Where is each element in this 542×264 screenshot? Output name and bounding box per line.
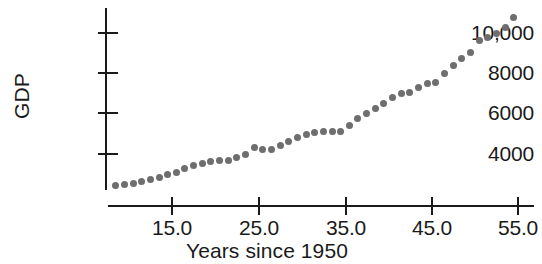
data-point xyxy=(484,34,491,41)
x-tick-label-25: 25.0 xyxy=(224,216,294,240)
data-point xyxy=(277,142,284,149)
data-point xyxy=(294,134,301,141)
data-point xyxy=(199,160,206,167)
x-axis-title: Years since 1950 xyxy=(0,239,534,263)
data-point xyxy=(432,79,439,86)
data-point xyxy=(502,24,509,31)
data-point xyxy=(216,157,223,164)
data-point xyxy=(225,157,232,164)
data-point xyxy=(415,84,422,91)
x-tick-label-35: 35.0 xyxy=(311,216,381,240)
data-point xyxy=(112,182,119,189)
data-point xyxy=(450,62,457,69)
y-tick-label-4000: 4000 xyxy=(444,142,534,166)
data-point xyxy=(372,105,379,112)
data-point xyxy=(233,154,240,161)
data-point xyxy=(130,180,137,187)
data-point xyxy=(380,100,387,107)
data-point xyxy=(190,162,197,169)
data-point xyxy=(424,80,431,87)
data-point xyxy=(285,138,292,145)
x-tick-label-15: 15.0 xyxy=(137,216,207,240)
data-point xyxy=(398,90,405,97)
y-axis-title: GDP xyxy=(10,46,34,146)
data-point xyxy=(242,151,249,158)
data-point xyxy=(138,178,145,185)
y-tick-label-8000: 8000 xyxy=(444,61,534,85)
data-point xyxy=(268,146,275,153)
data-point xyxy=(173,169,180,176)
data-point xyxy=(164,171,171,178)
data-point xyxy=(476,37,483,44)
data-point xyxy=(467,49,474,56)
data-point xyxy=(363,110,370,117)
data-point xyxy=(493,30,500,37)
x-tick-label-45: 45.0 xyxy=(397,216,467,240)
y-tick-label-6000: 6000 xyxy=(444,101,534,125)
data-point xyxy=(303,131,310,138)
y-tick-label-10000: 10,000 xyxy=(444,21,534,45)
x-tick-label-55: 55.0 xyxy=(483,216,542,240)
data-point xyxy=(329,128,336,135)
data-point xyxy=(207,158,214,165)
data-point xyxy=(147,176,154,183)
data-point xyxy=(337,128,344,135)
data-point xyxy=(389,94,396,101)
data-point xyxy=(251,144,258,151)
data-point xyxy=(121,181,128,188)
data-point xyxy=(311,129,318,136)
data-point xyxy=(441,70,448,77)
data-point xyxy=(346,122,353,129)
data-point xyxy=(406,89,413,96)
data-point xyxy=(181,165,188,172)
data-point xyxy=(156,174,163,181)
data-point xyxy=(354,115,361,122)
data-point xyxy=(320,128,327,135)
data-point xyxy=(259,146,266,153)
